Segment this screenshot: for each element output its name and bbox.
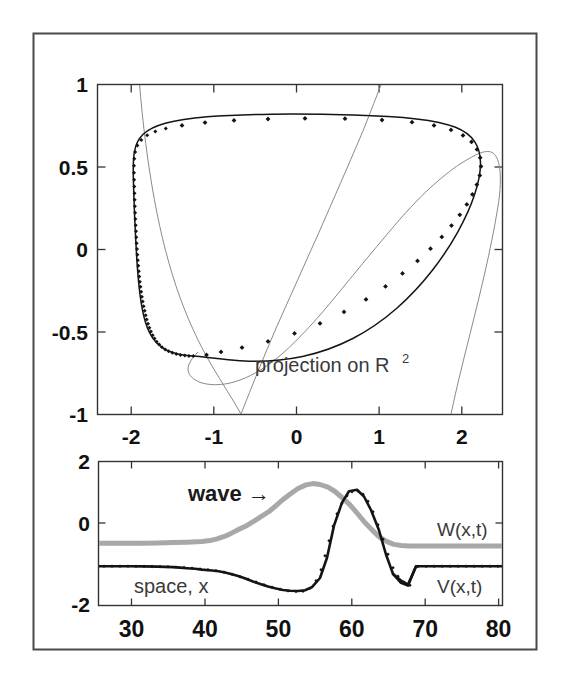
wave-x-tick-30: 30 xyxy=(119,616,145,642)
wave-x-tick-70: 70 xyxy=(412,616,438,642)
projection-annotation-superscript: 2 xyxy=(402,351,409,366)
phase-y-tick-neg0p5: -0.5 xyxy=(52,321,89,344)
phase-y-tick-0p5: 0.5 xyxy=(59,156,89,179)
phase-y-tick-1: 1 xyxy=(76,73,88,96)
phase-x-tick-1: 1 xyxy=(373,425,385,448)
projection-annotation: projection on R 2 xyxy=(255,351,409,376)
figure-root: 1 0.5 0 -0.5 -1 -2 -1 0 1 2 projection o… xyxy=(0,0,575,684)
wave-y-tick-neg2: -2 xyxy=(71,593,90,616)
wave-y-tick-2: 2 xyxy=(78,450,90,473)
phase-y-tick-0: 0 xyxy=(76,238,88,261)
wave-direction-label: wave → xyxy=(187,481,270,506)
phase-plane-panel: 1 0.5 0 -0.5 -1 -2 -1 0 1 2 projection o… xyxy=(52,62,503,448)
phase-x-tick-neg2: -2 xyxy=(122,425,141,448)
wave-x-tick-50: 50 xyxy=(266,616,292,642)
phase-x-tick-neg1: -1 xyxy=(204,425,223,448)
phase-x-tick-0: 0 xyxy=(291,425,303,448)
wave-x-tick-80: 80 xyxy=(486,616,512,642)
scientific-figure: 1 0.5 0 -0.5 -1 -2 -1 0 1 2 projection o… xyxy=(0,0,575,684)
wave-x-tick-40: 40 xyxy=(192,616,218,642)
projection-annotation-text: projection on R xyxy=(255,354,390,376)
v-series-label: V(x,t) xyxy=(437,576,482,597)
space-axis-label: space, x xyxy=(134,575,208,597)
w-series-label: W(x,t) xyxy=(437,519,488,540)
phase-y-tick-neg1: -1 xyxy=(69,403,88,426)
phase-x-tick-2: 2 xyxy=(456,425,468,448)
wave-y-tick-0: 0 xyxy=(78,512,90,535)
wave-x-tick-60: 60 xyxy=(339,616,365,642)
